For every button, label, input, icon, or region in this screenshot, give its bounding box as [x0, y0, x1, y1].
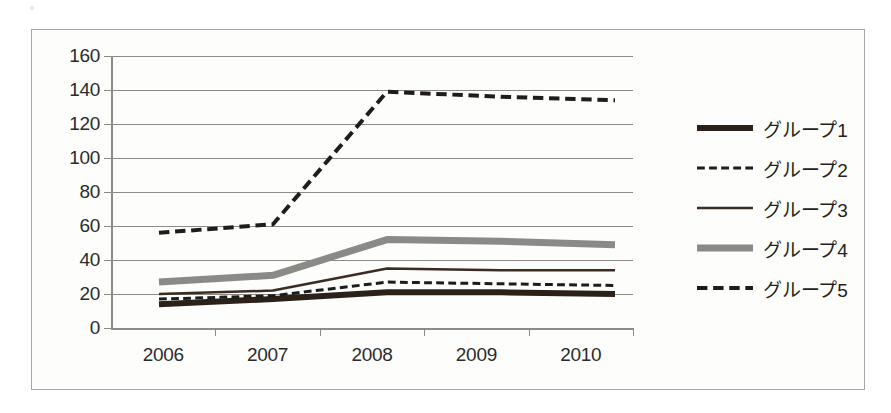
- y-axis-label-80: 80: [79, 181, 100, 203]
- x-axis-label-2010: 2010: [560, 344, 601, 366]
- x-tick-3: [424, 328, 425, 336]
- y-tick-20: [104, 294, 111, 295]
- y-tick-60: [104, 226, 111, 227]
- legend-line-icon-5: [696, 281, 754, 295]
- legend-item-5[interactable]: グループ5: [696, 268, 861, 308]
- legend: グループ1グループ2グループ3グループ4グループ5: [696, 108, 861, 308]
- y-tick-140: [104, 90, 111, 91]
- x-tick-2: [320, 328, 321, 336]
- y-axis-label-60: 60: [79, 215, 100, 237]
- y-axis-label-140: 140: [69, 79, 100, 101]
- legend-label-5: グループ5: [763, 275, 848, 302]
- y-axis-label-160: 160: [69, 45, 100, 67]
- x-axis-label-2008: 2008: [351, 344, 392, 366]
- series-line-1: [159, 292, 615, 304]
- series-lines: [111, 56, 633, 328]
- legend-item-3[interactable]: グループ3: [696, 188, 861, 228]
- x-tick-1: [215, 328, 216, 336]
- x-tick-5: [633, 328, 634, 336]
- x-axis-label-2009: 2009: [456, 344, 497, 366]
- series-line-4: [159, 240, 615, 283]
- series-line-5: [159, 92, 615, 233]
- legend-line-icon-4: [696, 241, 754, 255]
- y-tick-80: [104, 192, 111, 193]
- y-axis-label-0: 0: [90, 317, 100, 339]
- y-axis-label-20: 20: [79, 283, 100, 305]
- x-axis-label-2007: 2007: [247, 344, 288, 366]
- legend-label-2: グループ2: [763, 155, 848, 182]
- y-axis-label-120: 120: [69, 113, 100, 135]
- y-axis-label-100: 100: [69, 147, 100, 169]
- x-axis-label-2006: 2006: [143, 344, 184, 366]
- y-tick-100: [104, 158, 111, 159]
- plot-area: 020406080100120140160 200620072008200920…: [111, 56, 633, 328]
- x-tick-4: [529, 328, 530, 336]
- y-tick-40: [104, 260, 111, 261]
- gridline-0: [111, 328, 633, 330]
- legend-label-3: グループ3: [763, 195, 848, 222]
- chart-frame: 020406080100120140160 200620072008200920…: [31, 29, 865, 390]
- y-tick-0: [104, 328, 111, 329]
- legend-item-2[interactable]: グループ2: [696, 148, 861, 188]
- scan-speck: [30, 6, 34, 10]
- legend-line-icon-1: [696, 121, 754, 135]
- legend-item-4[interactable]: グループ4: [696, 228, 861, 268]
- legend-line-icon-3: [696, 201, 754, 215]
- legend-line-icon-2: [696, 161, 754, 175]
- legend-label-1: グループ1: [763, 115, 848, 142]
- y-tick-160: [104, 56, 111, 57]
- legend-item-1[interactable]: グループ1: [696, 108, 861, 148]
- legend-label-4: グループ4: [763, 235, 848, 262]
- y-axis-label-40: 40: [79, 249, 100, 271]
- y-tick-120: [104, 124, 111, 125]
